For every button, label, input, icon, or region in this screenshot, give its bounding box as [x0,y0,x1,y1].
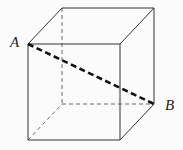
edge-bottom-right-connector [120,104,154,140]
hidden-edge-bottom-left-connector [28,104,62,140]
diagonal-ab [28,44,154,104]
cube-diagram: A B [0,0,183,150]
cube-drawing [0,0,183,150]
label-a: A [10,35,19,50]
edge-top-left-connector [28,8,62,44]
edge-top-right-connector [120,8,154,44]
label-b: B [165,98,174,113]
